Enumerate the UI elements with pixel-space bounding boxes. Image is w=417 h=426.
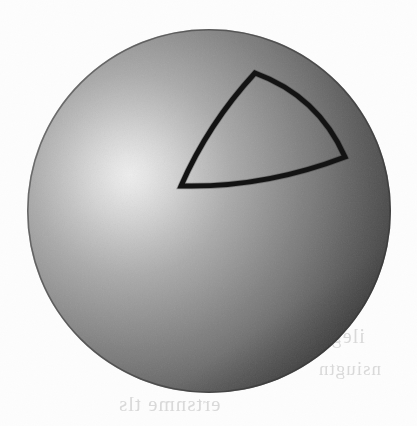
- sphere-body: [0, 0, 417, 426]
- sphere-illustration: [0, 0, 417, 426]
- figure-canvas: ertsnme tls ilegnus nsiugtn ale: [0, 0, 417, 426]
